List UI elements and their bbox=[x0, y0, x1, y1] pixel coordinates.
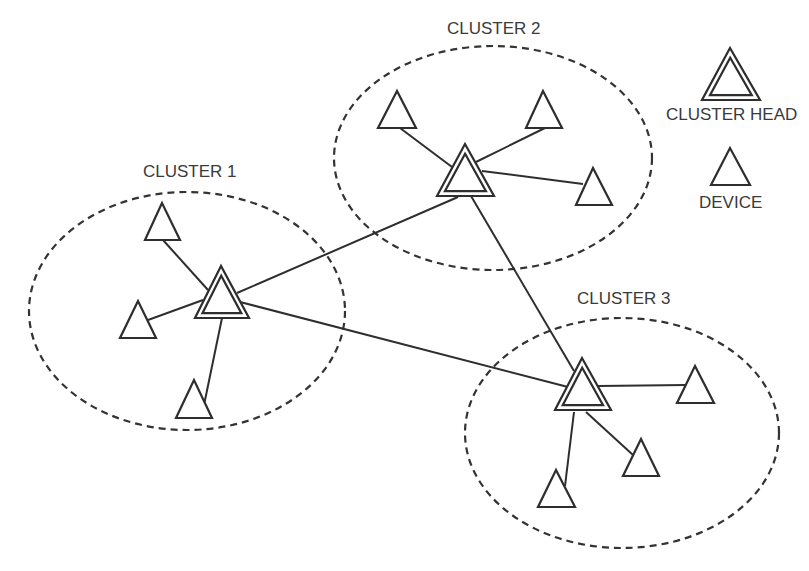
device-icon bbox=[378, 91, 416, 128]
legend-cluster-head-label: CLUSTER HEAD bbox=[666, 106, 797, 123]
device-icon bbox=[526, 91, 562, 128]
cluster-2-device-link bbox=[482, 171, 583, 184]
legend-cluster-head-icon bbox=[702, 48, 760, 100]
cluster-3-device-link bbox=[598, 385, 686, 386]
cluster-3-device-link bbox=[586, 412, 633, 455]
cluster-2-device-link bbox=[400, 128, 452, 167]
cluster-3-boundary bbox=[465, 318, 779, 548]
device-icon bbox=[576, 168, 612, 205]
cluster-2-device-link bbox=[476, 128, 545, 162]
cluster-3-label: CLUSTER 3 bbox=[577, 290, 671, 307]
cluster-head-icon bbox=[555, 358, 611, 410]
cluster-3-device-link bbox=[565, 412, 574, 486]
cluster-head-icon bbox=[437, 144, 494, 196]
cluster-2-label: CLUSTER 2 bbox=[447, 20, 541, 37]
cluster-1-device-link bbox=[163, 240, 208, 290]
network-diagram bbox=[0, 0, 809, 571]
cluster-2-boundary bbox=[334, 46, 652, 270]
legend-device-label: DEVICE bbox=[699, 194, 762, 211]
device-icon bbox=[538, 470, 575, 507]
cluster-1-label: CLUSTER 1 bbox=[143, 163, 237, 180]
device-icon bbox=[623, 439, 659, 476]
cluster-1-device-link bbox=[204, 318, 222, 405]
legend-device-icon bbox=[711, 148, 750, 185]
device-icon bbox=[145, 203, 180, 240]
device-icon bbox=[176, 380, 212, 418]
inter-cluster-link bbox=[240, 302, 568, 387]
inter-cluster-link bbox=[237, 197, 458, 293]
